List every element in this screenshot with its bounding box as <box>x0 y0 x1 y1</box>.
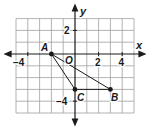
triangle-abc <box>51 54 110 89</box>
point-a <box>49 52 54 57</box>
y-axis <box>73 5 78 125</box>
point-c-label: C <box>77 92 85 103</box>
point-a-label: A <box>40 42 48 53</box>
y-tick-label-neg4: −4 <box>56 96 68 107</box>
y-tick-label-2: 2 <box>64 25 70 36</box>
coordinate-plane: y x O −4 2 4 2 −4 A B C <box>0 0 151 129</box>
x-tick-label-4: 4 <box>119 57 125 68</box>
origin-label: O <box>65 55 73 66</box>
point-b-label: B <box>111 92 118 103</box>
x-axis-label: x <box>135 39 143 51</box>
x-tick-label-neg4: −4 <box>13 57 25 68</box>
segment-ab <box>51 54 110 89</box>
x-tick-label-2: 2 <box>95 57 101 68</box>
y-axis-label: y <box>79 5 87 17</box>
